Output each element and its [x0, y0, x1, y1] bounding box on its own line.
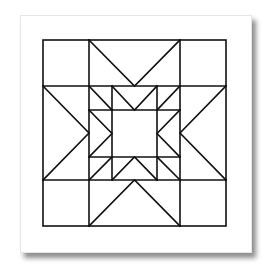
small-star-bottom [112, 157, 157, 180]
big-star-left [43, 86, 89, 180]
small-star-top [112, 86, 157, 110]
big-star-bottom [89, 180, 180, 226]
outer-square [43, 40, 226, 226]
big-star-top [89, 40, 180, 86]
big-star-right [180, 86, 226, 180]
quilt-block-diagram [0, 0, 264, 268]
small-star-right [157, 110, 180, 157]
small-star-left [89, 110, 112, 157]
